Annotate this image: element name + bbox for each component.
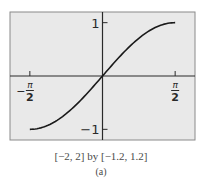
window-caption: [−2, 2] by [−1.2, 1.2] <box>0 150 202 162</box>
svg-text:2: 2 <box>26 91 34 104</box>
y-tick-label: 1 <box>91 16 99 31</box>
svg-text:π: π <box>27 80 33 90</box>
svg-text:2: 2 <box>171 91 179 104</box>
y-tick-label: −1 <box>80 122 99 137</box>
svg-text:π: π <box>172 80 178 90</box>
chart-plot: π2−π2 1−1 <box>0 0 202 150</box>
figure-label: (a) <box>0 166 202 177</box>
svg-text:−: − <box>16 85 25 98</box>
